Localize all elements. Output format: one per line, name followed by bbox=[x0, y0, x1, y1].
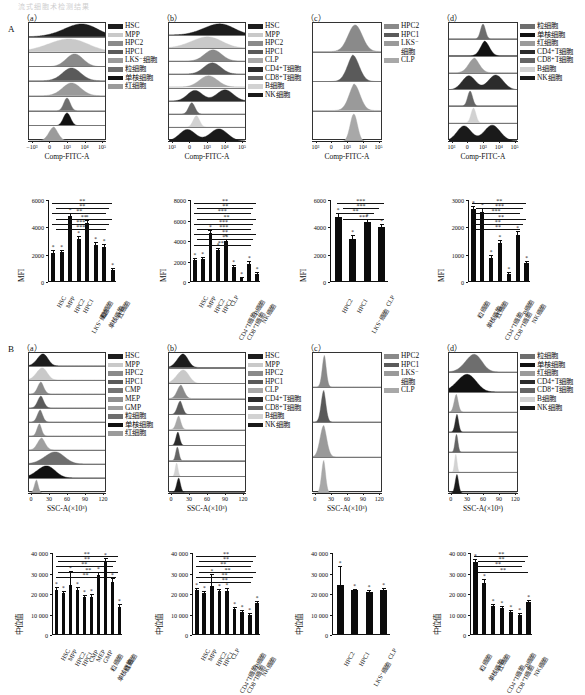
bar-star-Bc-bar-3: * bbox=[382, 582, 385, 588]
bar-star-Bd-bar-1: * bbox=[483, 573, 486, 579]
errorbar-cap-Bb-bar-0 bbox=[195, 588, 199, 589]
axis-ticklabel-Ad-1: 0 bbox=[466, 144, 469, 150]
errorbar-Ad-bar-5 bbox=[517, 232, 518, 234]
errorbar-Bb-bar-0 bbox=[196, 589, 197, 590]
y-ticklabel-Ba-bar-1: 10 000 bbox=[20, 611, 48, 618]
y-ticklabel-Bb-bar-4: 40 000 bbox=[160, 550, 188, 557]
bar-xlabel-Ab-bar-4: CLP bbox=[228, 294, 240, 308]
x-axis-title-Ab: Comp-FITC-A bbox=[168, 152, 246, 161]
bar-Aa-bar-0 bbox=[51, 253, 55, 281]
y-tickmark-Ac-bar-1 bbox=[328, 255, 331, 256]
legend-swatch-Aa-2 bbox=[108, 41, 123, 46]
bar-star-Bd-bar-5: * bbox=[518, 607, 521, 613]
bar-Bc-bar-3 bbox=[380, 590, 387, 634]
legend-swatch-Ad-2 bbox=[520, 41, 535, 46]
bar-Ba-bar-0 bbox=[55, 590, 59, 634]
histogram-trace-Bd-1 bbox=[449, 373, 517, 393]
y-ticklabel-Ad-bar-0: 0 bbox=[444, 279, 464, 286]
bar-star-Ba-bar-4: * bbox=[83, 589, 86, 595]
errorbar-Ba-bar-4 bbox=[84, 596, 85, 597]
bar-Ba-bar-6 bbox=[97, 575, 101, 634]
axis-ticklabel-Ab-1: 0 bbox=[188, 144, 191, 150]
legend-swatch-Bb-0 bbox=[248, 354, 263, 359]
sig-label-Ac-bar-2: ** bbox=[353, 208, 359, 214]
histogram-trace-Bd-6 bbox=[449, 473, 517, 493]
legend-swatch-Bc-0 bbox=[384, 354, 399, 359]
legend-swatch-Ab-3 bbox=[248, 50, 263, 55]
errorbar-Bd-bar-5 bbox=[519, 614, 520, 615]
legend-swatch-Ba-7 bbox=[108, 414, 123, 419]
y-ticklabel-Bb-bar-1: 10 000 bbox=[160, 611, 188, 618]
errorbar-Ad-bar-4 bbox=[508, 273, 509, 274]
legend-item-Ad-6: NK细胞 bbox=[520, 74, 573, 83]
errorbar-cap-Ab-bar-6 bbox=[240, 277, 244, 278]
bar-Ba-bar-1 bbox=[62, 593, 66, 634]
legend-label-Bd-6: NK细胞 bbox=[537, 404, 562, 413]
y-tickmark-Bd-bar-1 bbox=[468, 615, 471, 616]
errorbar-Aa-bar-3 bbox=[78, 237, 79, 239]
errorbar-cap-Ab-bar-3 bbox=[216, 248, 220, 249]
legend-swatch-Ad-3 bbox=[520, 50, 535, 55]
axis-ticklabel-Bc-4: 120 bbox=[375, 496, 384, 502]
errorbar-Ba-bar-8 bbox=[112, 579, 113, 582]
errorbar-cap-Bd-bar-1 bbox=[482, 579, 486, 580]
bar-star-Ab-bar-5: * bbox=[232, 259, 235, 265]
top-faint-text: 流式细胞术检测结果 bbox=[18, 1, 318, 10]
bar-Ac-bar-3 bbox=[378, 227, 385, 281]
legend-swatch-Ad-0 bbox=[520, 24, 535, 29]
errorbar-cap-Aa-bar-4 bbox=[85, 220, 89, 221]
errorbar-Bb-bar-7 bbox=[249, 614, 250, 615]
errorbar-Ac-bar-3 bbox=[381, 225, 382, 227]
y-tickmark-Aa-bar-2 bbox=[46, 227, 49, 228]
legend-label-Bc-3: CLP bbox=[401, 386, 415, 395]
y-axis-title-Ab-bar: MFI bbox=[159, 269, 168, 282]
bar-Bb-bar-1 bbox=[202, 593, 206, 634]
histogram-plot-Bd bbox=[448, 352, 518, 492]
errorbar-Bb-bar-1 bbox=[204, 592, 205, 593]
legend-swatch-Ba-0 bbox=[108, 354, 123, 359]
legend-swatch-Ab-0 bbox=[248, 24, 263, 29]
y-tickmark-Ba-bar-3 bbox=[50, 574, 53, 575]
axis-ticklabel-Aa-4: 10⁵ bbox=[98, 144, 106, 150]
histogram-trace-Ab-5 bbox=[169, 89, 245, 102]
y-ticklabel-Ac-bar-0: 0 bbox=[306, 279, 326, 286]
y-ticklabel-Ab-bar-3: 6000 bbox=[166, 217, 186, 224]
errorbar-Ba-bar-2 bbox=[70, 572, 71, 585]
y-tickmark-Ba-bar-0 bbox=[50, 635, 53, 636]
histogram-trace-Bb-2 bbox=[169, 384, 245, 400]
bar-star-Ba-bar-3: * bbox=[76, 581, 79, 587]
y-tickmark-Bd-bar-0 bbox=[468, 635, 471, 636]
histogram-trace-Ba-1 bbox=[29, 367, 105, 381]
histogram-trace-Ad-3 bbox=[449, 74, 517, 91]
axis-ticklabel-Ac-2: 10³ bbox=[343, 144, 351, 150]
axis-ticklabel-Aa-1: 0 bbox=[48, 144, 51, 150]
y-ticklabel-Ad-bar-1: 1000 bbox=[444, 251, 464, 258]
errorbar-Bd-bar-1 bbox=[484, 580, 485, 583]
bar-star-Bb-bar-0: * bbox=[195, 582, 198, 588]
y-tickmark-Ac-bar-2 bbox=[328, 227, 331, 228]
legend-swatch-Aa-7 bbox=[108, 84, 123, 89]
histogram-trace-Bb-3 bbox=[169, 400, 245, 416]
axis-ticklabel-Bd-3: 90 bbox=[496, 496, 502, 502]
sig-label-Ba-bar-4: ** bbox=[83, 572, 89, 578]
axis-ticklabel-Bc-0: 0 bbox=[313, 496, 316, 502]
errorbar-Ab-bar-5 bbox=[233, 266, 234, 267]
histogram-trace-Aa-2 bbox=[29, 53, 105, 68]
y-tickmark-Bc-bar-4 bbox=[330, 553, 333, 554]
y-tickmark-Ad-bar-2 bbox=[466, 227, 469, 228]
axis-ticklabel-Ba-1: 30 bbox=[46, 496, 52, 502]
legend-swatch-Ab-1 bbox=[248, 33, 263, 38]
histogram-trace-Bb-0 bbox=[169, 353, 245, 369]
axis-ticklabel-Aa-2: 10³ bbox=[63, 144, 71, 150]
histogram-trace-Bc-2 bbox=[313, 423, 381, 458]
errorbar-Ad-bar-3 bbox=[500, 241, 501, 243]
y-tickmark-Ad-bar-1 bbox=[466, 255, 469, 256]
legend-swatch-Aa-4 bbox=[108, 58, 123, 63]
bar-xlabel-Aa-bar-7: 红细胞 bbox=[115, 300, 132, 320]
bar-Bd-bar-1 bbox=[482, 583, 486, 634]
legend-swatch-Bd-3 bbox=[520, 380, 535, 385]
histogram-trace-Bd-3 bbox=[449, 413, 517, 433]
y-ticklabel-Ab-bar-0: 0 bbox=[166, 279, 186, 286]
bar-xlabel-Bc-bar-1: HPC1 bbox=[357, 650, 371, 667]
legend-item-Aa-7: 红细胞 bbox=[108, 82, 157, 91]
